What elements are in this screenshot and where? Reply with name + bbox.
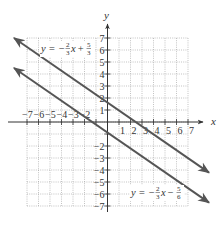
- svg-text:5: 5: [177, 185, 181, 193]
- svg-text:3: 3: [156, 193, 160, 201]
- svg-text:6: 6: [177, 193, 181, 201]
- x-tick-label: −6: [34, 109, 45, 120]
- svg-text:y = −: y = −: [130, 187, 155, 198]
- y-tick-label: 7: [100, 33, 105, 44]
- x-tick-label: 7: [189, 125, 194, 136]
- x-tick-label: 1: [120, 125, 125, 136]
- svg-text:5: 5: [87, 41, 91, 49]
- svg-text:−: −: [165, 187, 176, 198]
- x-tick-label: −4: [57, 109, 68, 120]
- x-tick-label: −7: [22, 109, 33, 120]
- x-tick-label: −5: [45, 109, 56, 120]
- y-tick-label: −6: [94, 189, 105, 200]
- y-tick-label: −2: [94, 141, 105, 152]
- svg-text:+: +: [75, 43, 86, 54]
- y-tick-label: −4: [94, 165, 105, 176]
- y-tick-label: 6: [100, 45, 105, 56]
- svg-text:2: 2: [156, 185, 160, 193]
- x-tick-label: 5: [166, 125, 171, 136]
- y-tick-label: 5: [100, 57, 105, 68]
- y-tick-label: 1: [100, 105, 105, 116]
- x-tick-label: 2: [132, 125, 137, 136]
- y-axis-label: y: [103, 9, 109, 21]
- y-tick-label: −5: [94, 177, 105, 188]
- svg-text:3: 3: [87, 49, 91, 57]
- y-tick-label: −3: [94, 153, 105, 164]
- y-tick-label: 3: [100, 81, 105, 92]
- y-tick-label: −7: [94, 201, 105, 212]
- upper-line: [14, 38, 209, 173]
- x-axis-label: x: [210, 115, 216, 127]
- svg-text:y = −: y = −: [40, 43, 65, 54]
- coordinate-graph: x y −7−6−5−4−3−21234567 7654321−2−3−4−5−…: [0, 0, 223, 227]
- svg-text:2: 2: [66, 41, 70, 49]
- svg-text:3: 3: [66, 49, 70, 57]
- y-tick-label: 4: [100, 69, 105, 80]
- x-tick-label: 6: [178, 125, 183, 136]
